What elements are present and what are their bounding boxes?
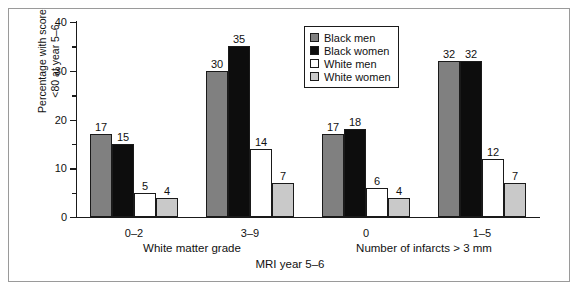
bar: 5 bbox=[134, 193, 156, 217]
bar: 32 bbox=[460, 61, 482, 217]
y-tick-major bbox=[70, 168, 76, 169]
bar-value-label: 30 bbox=[211, 58, 223, 70]
bar-value-label: 32 bbox=[465, 48, 477, 60]
legend-item: White men bbox=[310, 57, 391, 70]
y-tick-minor bbox=[72, 144, 76, 145]
bar: 17 bbox=[90, 134, 112, 217]
bar: 12 bbox=[482, 159, 504, 218]
bar: 30 bbox=[206, 71, 228, 217]
bar: 6 bbox=[366, 188, 388, 217]
x-category-label: 1–5 bbox=[473, 227, 491, 239]
bar: 4 bbox=[388, 198, 410, 218]
y-tick-major bbox=[70, 120, 76, 121]
y-tick-label: 40 bbox=[55, 16, 67, 28]
chart-legend: Black menBlack womenWhite menWhite women bbox=[304, 26, 399, 88]
legend-item: Black women bbox=[310, 44, 391, 57]
legend-label: Black men bbox=[324, 32, 375, 44]
y-tick-major bbox=[70, 22, 76, 23]
legend-swatch-icon bbox=[310, 46, 319, 55]
bar-value-label: 15 bbox=[117, 131, 129, 143]
y-tick-label: 20 bbox=[55, 114, 67, 126]
bar: 32 bbox=[438, 61, 460, 217]
bar-value-label: 6 bbox=[374, 175, 380, 187]
y-tick-major bbox=[70, 217, 76, 218]
x-axis-line bbox=[76, 217, 540, 218]
legend-label: Black women bbox=[324, 45, 389, 57]
x-category-label: 0 bbox=[363, 227, 369, 239]
bar: 7 bbox=[504, 183, 526, 217]
bar: 7 bbox=[272, 183, 294, 217]
legend-item: Black men bbox=[310, 31, 391, 44]
bar-value-label: 4 bbox=[164, 185, 170, 197]
legend-label: White women bbox=[324, 71, 391, 83]
bar-value-label: 5 bbox=[142, 180, 148, 192]
y-tick-major bbox=[70, 71, 76, 72]
bar: 35 bbox=[228, 46, 250, 217]
bar-value-label: 18 bbox=[349, 116, 361, 128]
legend-swatch-icon bbox=[310, 33, 319, 42]
legend-swatch-icon bbox=[310, 59, 319, 68]
y-axis-title-line1: Percentage with score bbox=[36, 0, 49, 156]
x-group-label: White matter grade bbox=[143, 242, 241, 254]
x-category-label: 3–9 bbox=[241, 227, 259, 239]
x-group-label: Number of infarcts > 3 mm bbox=[356, 242, 492, 254]
bar-value-label: 7 bbox=[512, 170, 518, 182]
legend-swatch-icon bbox=[310, 72, 319, 81]
bar: 4 bbox=[156, 198, 178, 218]
y-tick-minor bbox=[72, 46, 76, 47]
legend-label: White men bbox=[324, 58, 377, 70]
y-tick-label: 10 bbox=[55, 162, 67, 174]
bar-value-label: 35 bbox=[233, 33, 245, 45]
bar: 17 bbox=[322, 134, 344, 217]
y-tick-label: 0 bbox=[61, 211, 67, 223]
bar-value-label: 17 bbox=[95, 121, 107, 133]
bar: 14 bbox=[250, 149, 272, 217]
y-tick-minor bbox=[72, 193, 76, 194]
bar-value-label: 12 bbox=[487, 146, 499, 158]
bar-value-label: 17 bbox=[327, 121, 339, 133]
y-tick-label: 30 bbox=[55, 65, 67, 77]
x-axis-title: MRI year 5–6 bbox=[0, 258, 580, 270]
x-category-label: 0–2 bbox=[125, 227, 143, 239]
y-tick-minor bbox=[72, 95, 76, 96]
bar-value-label: 7 bbox=[280, 170, 286, 182]
bar-value-label: 14 bbox=[255, 136, 267, 148]
chart-figure: Percentage with score <80 at year 5–6 01… bbox=[0, 0, 580, 292]
legend-item: White women bbox=[310, 70, 391, 83]
bar: 15 bbox=[112, 144, 134, 217]
bar-value-label: 4 bbox=[396, 185, 402, 197]
bar: 18 bbox=[344, 129, 366, 217]
bar-value-label: 32 bbox=[443, 48, 455, 60]
